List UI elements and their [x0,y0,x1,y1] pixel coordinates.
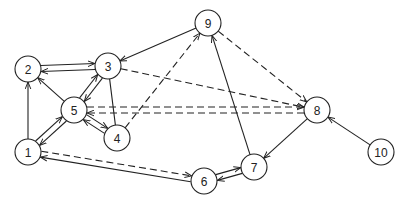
node-4: 4 [104,125,130,151]
node-3: 3 [95,53,121,79]
graph-diagram: 12345678910 [0,0,405,206]
node-label: 3 [105,60,112,74]
edge-3-to-4 [110,79,116,125]
node-9: 9 [195,10,221,36]
node-10: 10 [368,139,394,165]
edge-6-to-1 [40,157,190,182]
node-label: 10 [374,146,388,160]
node-label: 8 [314,104,321,118]
node-label: 6 [201,175,208,189]
node-1: 1 [15,139,41,165]
edge-7-to-6 [217,173,242,180]
edge-5-to-4 [87,115,108,129]
edge-3-to-5 [84,78,102,101]
edge-9-to-8 [218,31,307,102]
edge-3-to-2 [41,70,95,72]
node-6: 6 [191,168,217,194]
edge-8-to-7 [264,119,308,159]
nodes-layer: 12345678910 [15,10,394,194]
edge-4-to-9 [125,33,200,128]
edge-5-to-3 [80,75,98,98]
node-label: 1 [25,146,32,160]
edge-1-to-6 [41,151,191,176]
node-7: 7 [241,154,267,180]
edge-10-to-8 [328,117,370,145]
node-label: 4 [114,132,121,146]
node-label: 7 [251,161,258,175]
node-label: 9 [205,17,212,31]
node-8: 8 [304,97,330,123]
node-label: 5 [71,104,78,118]
edge-2-to-3 [41,64,95,66]
node-label: 2 [25,63,32,77]
node-2: 2 [15,56,41,82]
edge-5-to-2 [38,78,65,102]
edge-4-to-5 [83,120,104,134]
node-5: 5 [61,97,87,123]
edge-6-to-7 [216,168,241,175]
edge-3-to-8 [121,69,305,108]
edge-9-to-3 [120,28,196,61]
